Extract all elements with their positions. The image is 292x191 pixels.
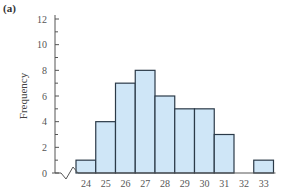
x-tick-label: 26 bbox=[120, 178, 130, 189]
y-tick-label: 6 bbox=[42, 91, 47, 102]
y-tick-label: 12 bbox=[37, 14, 47, 25]
x-tick-label: 33 bbox=[259, 178, 269, 189]
y-tick-label: 4 bbox=[42, 116, 47, 127]
histogram-bar bbox=[96, 122, 116, 173]
histogram-bar bbox=[175, 109, 195, 173]
histogram-bar bbox=[214, 135, 234, 174]
x-tick-label: 32 bbox=[239, 178, 249, 189]
y-axis-label: Frequency bbox=[17, 72, 29, 119]
y-tick-label: 0 bbox=[42, 168, 47, 179]
x-tick-label: 25 bbox=[101, 178, 111, 189]
histogram-bar bbox=[116, 83, 136, 173]
y-tick-label: 2 bbox=[42, 142, 47, 153]
x-tick-label: 30 bbox=[199, 178, 209, 189]
bars bbox=[76, 70, 274, 173]
x-tick-label: 24 bbox=[81, 178, 91, 189]
histogram-bar bbox=[76, 160, 96, 173]
x-tick-label: 28 bbox=[160, 178, 170, 189]
x-tick-label: 29 bbox=[180, 178, 190, 189]
histogram-chart: 024681012 24252627282930313233 Frequency bbox=[0, 0, 292, 191]
x-tick-label: 27 bbox=[140, 178, 150, 189]
y-tick-label: 8 bbox=[42, 65, 47, 76]
y-axis: 024681012 bbox=[37, 14, 59, 179]
x-tick-label: 31 bbox=[219, 178, 229, 189]
histogram-bar bbox=[135, 70, 155, 173]
histogram-bar bbox=[254, 160, 274, 173]
histogram-bar bbox=[195, 109, 215, 173]
histogram-bar bbox=[155, 96, 175, 173]
axis-break-icon bbox=[52, 167, 78, 179]
y-tick-label: 10 bbox=[37, 39, 47, 50]
